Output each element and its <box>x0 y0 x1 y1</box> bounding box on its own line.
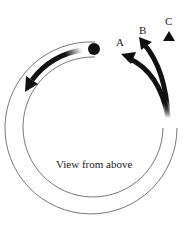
label-c: C <box>165 15 172 27</box>
label-a: A <box>116 36 124 48</box>
track-outer-edge <box>5 42 177 214</box>
ball <box>88 43 100 55</box>
label-b: B <box>139 24 146 36</box>
circular-track <box>5 42 177 214</box>
caption: View from above <box>56 158 132 170</box>
motion-arrow <box>25 50 82 92</box>
exit-paths <box>121 31 175 118</box>
track-inner-edge <box>23 57 163 197</box>
exit-arrowhead-c <box>163 31 175 41</box>
diagram-canvas <box>0 0 190 229</box>
